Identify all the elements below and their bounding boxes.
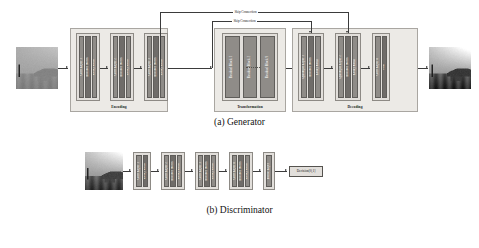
architecture-figure: Encoding Conv Layer 1 Instance Norm Leak… <box>0 0 479 248</box>
disc-d3-arrowhead <box>225 169 227 171</box>
discriminator-caption: (b) Discriminator <box>0 205 479 215</box>
decision-label: Decision[0,1] <box>297 169 316 173</box>
bar-upsample-layer-1: Upsample Layer 1 <box>301 36 307 98</box>
bar-instance-norm: Instance Norm <box>308 36 314 98</box>
bar-upsample-layer-2: Upsample Layer 2 <box>338 36 344 98</box>
bar-residual-block-1: Residual Block 1 <box>225 36 240 98</box>
disc-d4-arrowhead <box>259 169 261 171</box>
block-disc-conv-layer-4: Conv Layer 4 Instance Norm Leaky ReLu <box>229 152 253 190</box>
bar-conv-layer-4: Conv Layer 4 <box>375 36 381 98</box>
bar-instance-norm: Instance Norm <box>204 155 209 187</box>
block-upsample-layer-1: Upsample Layer 1 Instance Norm Leaky ReL… <box>298 33 324 101</box>
disc-d1-arrowhead <box>157 169 159 171</box>
bar-residual-block-9: Residual Block 9 <box>260 36 275 98</box>
bar-conv-layer-2: Conv Layer 2 <box>164 155 169 187</box>
skip-connection-2-top-hline <box>212 21 311 22</box>
generator-output-image <box>429 47 471 89</box>
skip-connection-1-right-vline <box>348 12 349 33</box>
bar-conv-layer-1: Conv Layer 1 <box>136 155 142 187</box>
block-conv-layer-1: Conv Layer 1 Instance Norm Leaky ReLu <box>76 33 100 101</box>
encoding-to-transformation-line <box>168 68 212 69</box>
bar-leaky-relu: Leaky ReLu <box>126 36 131 98</box>
output-arrowhead <box>426 66 428 68</box>
bar-tanh: Tanh <box>382 36 388 98</box>
up1-arrowhead <box>331 66 333 68</box>
bar-leaky-relu: Leaky ReLu <box>352 36 358 98</box>
disc-input-arrowhead <box>129 169 131 171</box>
block-disc-conv-layer-1: Conv Layer 1 Leaky ReLu <box>133 152 151 190</box>
skip-connection-2-arrowhead <box>309 31 311 33</box>
disc-output-arrowhead <box>285 169 287 171</box>
bar-conv-layer-2: Conv Layer 2 <box>113 36 118 98</box>
block-conv-layer-4: Conv Layer 4 Tanh <box>372 33 390 101</box>
skip-connection-2-left-vline <box>212 21 213 68</box>
skip-connection-1-left-vline <box>160 12 161 68</box>
block-conv-layer-3: Conv Layer 3 Instance Norm Leaky ReLu <box>144 33 168 101</box>
block-conv-layer-2: Conv Layer 2 Instance Norm Leaky ReLu <box>110 33 134 101</box>
residual-block-ellipsis <box>246 67 260 68</box>
bar-conv-layer-4: Conv Layer 4 <box>232 155 237 187</box>
bar-leaky-relu: Leaky ReLu <box>315 36 321 98</box>
decoding-group-label: Decoding <box>293 105 417 110</box>
skip-connection-1-label: Skip Connection <box>233 10 258 14</box>
bar-leaky-relu: Leaky ReLu <box>92 36 97 98</box>
generator-caption: (a) Generator <box>0 117 479 127</box>
generator-input-image <box>16 47 58 89</box>
discriminator-input-image <box>85 152 123 190</box>
bar-instance-norm: Instance Norm <box>170 155 175 187</box>
bar-leaky-relu: Leaky ReLu <box>143 155 149 187</box>
bar-instance-norm: Instance Norm <box>85 36 90 98</box>
bar-leaky-relu: Leaky ReLu <box>211 155 216 187</box>
bar-dense-layer: Dense Layer <box>266 155 272 187</box>
up2-arrowhead <box>368 66 370 68</box>
block-disc-conv-layer-3: Conv Layer 3 Instance Norm Leaky ReLu <box>195 152 219 190</box>
encoding-group-label: Encoding <box>71 105 167 110</box>
bar-conv-layer-3: Conv Layer 3 <box>147 36 152 98</box>
bar-instance-norm: Instance Norm <box>153 36 158 98</box>
decision-output-box: Decision[0,1] <box>289 166 323 177</box>
conv2-arrowhead <box>140 66 142 68</box>
bar-leaky-relu: Leaky ReLu <box>245 155 250 187</box>
skip-connection-1-arrowhead <box>346 31 348 33</box>
bar-instance-norm: Instance Norm <box>119 36 124 98</box>
disc-d2-arrowhead <box>191 169 193 171</box>
bar-instance-norm: Instance Norm <box>238 155 243 187</box>
bar-instance-norm: Instance Norm <box>345 36 351 98</box>
transformation-group-label: Transformation <box>215 105 285 110</box>
block-upsample-layer-2: Upsample Layer 2 Instance Norm Leaky ReL… <box>335 33 361 101</box>
bar-conv-layer-3: Conv Layer 3 <box>198 155 203 187</box>
conv1-arrowhead <box>106 66 108 68</box>
block-disc-dense-layer: Dense Layer <box>263 152 275 190</box>
bar-leaky-relu: Leaky ReLu <box>177 155 182 187</box>
bar-conv-layer-1: Conv Layer 1 <box>79 36 84 98</box>
input-arrowhead <box>66 66 68 68</box>
skip-connection-2-label: Skip Connection <box>232 19 257 23</box>
block-disc-conv-layer-2: Conv Layer 2 Instance Norm Leaky ReLu <box>161 152 185 190</box>
